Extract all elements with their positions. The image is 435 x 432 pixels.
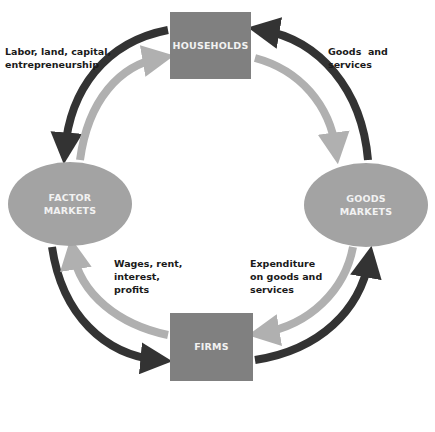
goods-and-services-label: Goods and services [328,45,388,71]
arrow-households-to-goods [255,58,336,150]
labor-land-capital-label: Labor, land, capital, entrepreneurship [5,45,111,71]
firms-label: FIRMS [170,340,253,353]
goods-markets-label: GOODS MARKETS [316,192,416,218]
factor-markets-label: FACTOR MARKETS [20,191,120,217]
expenditure-label: Expenditure on goods and services [250,257,322,296]
wages-rent-interest-profits-label: Wages, rent, interest, profits [114,257,182,296]
households-label: HOUSEHOLDS [170,39,251,52]
